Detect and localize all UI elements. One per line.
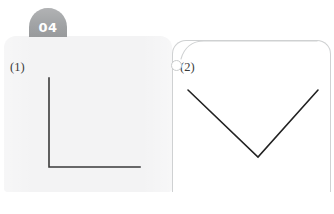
badge-number-label: 04 bbox=[38, 21, 57, 34]
worksheet-page: 04 (1) (2) bbox=[0, 0, 334, 214]
figure-panel-2 bbox=[172, 40, 331, 192]
section-badge-04: 04 bbox=[29, 8, 67, 37]
ring-hook-icon bbox=[171, 60, 182, 71]
figure-panel-1 bbox=[4, 36, 172, 192]
figure-1-label: (1) bbox=[10, 61, 25, 74]
figure-2-label: (2) bbox=[180, 61, 195, 74]
